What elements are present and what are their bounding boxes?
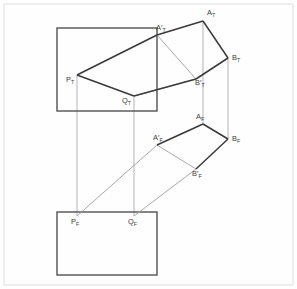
edge-ApT-BpT [157, 35, 196, 79]
edge-PT-ApT-solid [77, 35, 157, 75]
edge-QT-BpT-solid [134, 79, 196, 96]
edge-AT-BT [203, 21, 228, 58]
label-P-top: PT [66, 75, 75, 85]
label-Q-top: QT [122, 96, 132, 106]
edge-BT-BpT [196, 58, 228, 79]
point-labels-group: ATA′TBTB′TPTQTAFA′FBFB′FPFQF [66, 8, 241, 227]
label-A-front: AF [196, 112, 205, 122]
top-view-plane [57, 28, 157, 111]
label-A-top: AT [207, 8, 216, 18]
top-view-solid-edges [77, 21, 228, 96]
label-Q-front: QF [128, 217, 138, 227]
projector-lines-group [77, 21, 228, 216]
label-B-prime-front: B′F [192, 169, 203, 179]
label-A-prime-top: A′T [156, 23, 167, 33]
edge-ApF-BpF [157, 145, 196, 169]
label-P-front: PF [71, 217, 80, 227]
edge-ApF-AF [157, 124, 203, 145]
projection-figure: ATA′TBTB′TPTQTAFA′FBFB′FPFQF [0, 0, 297, 289]
edge-PT-QT [77, 75, 134, 96]
edge-BF-BpF [196, 139, 228, 169]
front-view-solid-edges [157, 124, 228, 169]
label-B-top: BT [232, 53, 241, 63]
label-A-prime-front: A′F [153, 133, 164, 143]
sheet-border [4, 4, 293, 285]
edge-AF-BF [203, 124, 228, 139]
label-B-prime-top: B′T [195, 78, 206, 88]
edge-QF-BpF [134, 169, 196, 216]
front-view-light-edges [77, 145, 196, 216]
edge-PF-ApF [77, 145, 157, 216]
technical-drawing-canvas: ATA′TBTB′TPTQTAFA′FBFB′FPFQF [0, 0, 297, 289]
label-B-front: BF [232, 134, 241, 144]
